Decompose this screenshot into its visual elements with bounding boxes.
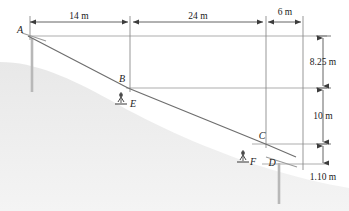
dimension-label-10m: 10 m: [313, 111, 333, 121]
dimension-label-14m: 14 m: [69, 11, 89, 21]
tower-a-crossbar: [22, 33, 46, 41]
hillside-terrain: [0, 62, 349, 211]
dimension-14m: 14 m: [30, 11, 128, 22]
dimension-label-1-10m: 1.10 m: [310, 172, 337, 182]
dimension-label-24m: 24 m: [188, 11, 208, 21]
figure-container: 14 m 24 m 6 m 8.25 m 10 m 1.10 m: [0, 0, 349, 211]
point-label-c: C: [259, 130, 266, 141]
skier-e-icon: [115, 92, 127, 104]
dimension-6m: 6 m: [268, 7, 301, 22]
point-label-d: D: [267, 157, 276, 168]
dimension-1-10m: 1.10 m: [310, 144, 337, 182]
dimension-label-6m: 6 m: [278, 7, 293, 17]
point-label-b: B: [119, 73, 125, 84]
point-label-a: A: [16, 24, 24, 35]
point-label-e: E: [129, 98, 136, 109]
dimension-label-8-25m: 8.25 m: [310, 57, 337, 67]
dimension-8-25m: 8.25 m: [310, 36, 337, 86]
dimension-24m: 24 m: [133, 11, 263, 22]
dimension-10m: 10 m: [313, 88, 333, 142]
ski-lift-diagram: 14 m 24 m 6 m 8.25 m 10 m 1.10 m: [0, 0, 349, 211]
point-label-f: F: [249, 156, 257, 167]
